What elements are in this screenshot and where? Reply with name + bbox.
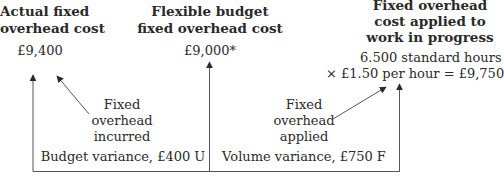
bottom-connector-line xyxy=(33,75,400,172)
incurred-arrow xyxy=(57,76,89,114)
applied-arrow xyxy=(333,87,386,119)
